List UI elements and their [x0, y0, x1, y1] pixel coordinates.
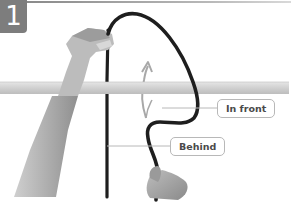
horizontal-pole	[0, 82, 289, 94]
rope-left-strand	[107, 30, 108, 197]
instruction-figure: 1 In front Behind	[0, 0, 293, 207]
in-front-label: In front	[217, 99, 275, 118]
step-number-badge: 1	[0, 0, 27, 33]
right-hand	[147, 166, 188, 200]
left-arm	[14, 96, 78, 197]
behind-label: Behind	[170, 137, 225, 156]
